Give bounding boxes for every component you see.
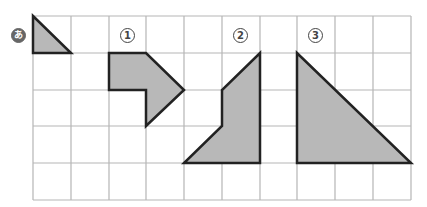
label-1: 1 <box>120 28 135 43</box>
label-3: 3 <box>308 28 323 43</box>
label-2: 2 <box>233 28 248 43</box>
label-a: あ <box>11 28 26 43</box>
grid-diagram <box>0 0 427 207</box>
shape-a <box>33 16 71 53</box>
shape-1 <box>109 53 184 126</box>
shape-3 <box>297 53 411 163</box>
